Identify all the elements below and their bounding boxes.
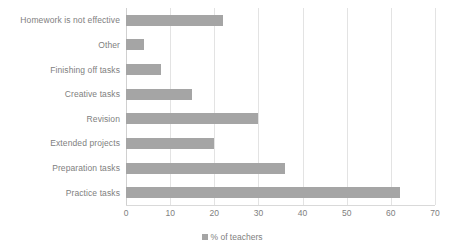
bar[interactable] [126,113,258,124]
bar-row [126,82,435,107]
x-tick-label: 40 [298,208,307,218]
bar-row [126,180,435,205]
x-axis-line [126,205,435,206]
x-tick-label: 50 [342,208,351,218]
x-axis-ticks: 010203040506070 [126,208,435,222]
bar-row [126,156,435,181]
category-label: Finishing off tasks [0,65,120,75]
bar-row [126,8,435,33]
bar[interactable] [126,89,192,100]
x-tick-label: 30 [254,208,263,218]
bar-chart: Homework is not effective Other Finishin… [0,0,464,252]
x-tick-label: 70 [430,208,439,218]
bar[interactable] [126,64,161,75]
category-label: Revision [0,114,120,124]
x-tick-label: 10 [165,208,174,218]
bar[interactable] [126,163,285,174]
bar-row [126,57,435,82]
x-tick-label: 20 [210,208,219,218]
bar-row [126,33,435,58]
bar[interactable] [126,138,214,149]
chart-legend: % of teachers [0,232,464,242]
x-tick-label: 0 [124,208,129,218]
bar[interactable] [126,187,400,198]
category-axis: Homework is not effective Other Finishin… [0,8,120,205]
bar[interactable] [126,15,223,26]
bar-row [126,131,435,156]
bar-series [126,8,435,205]
plot-area [126,8,435,205]
category-label: Other [0,40,120,50]
category-label: Creative tasks [0,89,120,99]
bar-row [126,107,435,132]
category-label: Homework is not effective [0,15,120,25]
legend-label: % of teachers [211,232,263,242]
category-label: Practice tasks [0,188,120,198]
category-label: Extended projects [0,138,120,148]
category-label: Preparation tasks [0,163,120,173]
gridline [435,8,436,205]
legend-swatch-icon [202,234,208,240]
bar[interactable] [126,39,144,50]
x-tick-label: 60 [386,208,395,218]
